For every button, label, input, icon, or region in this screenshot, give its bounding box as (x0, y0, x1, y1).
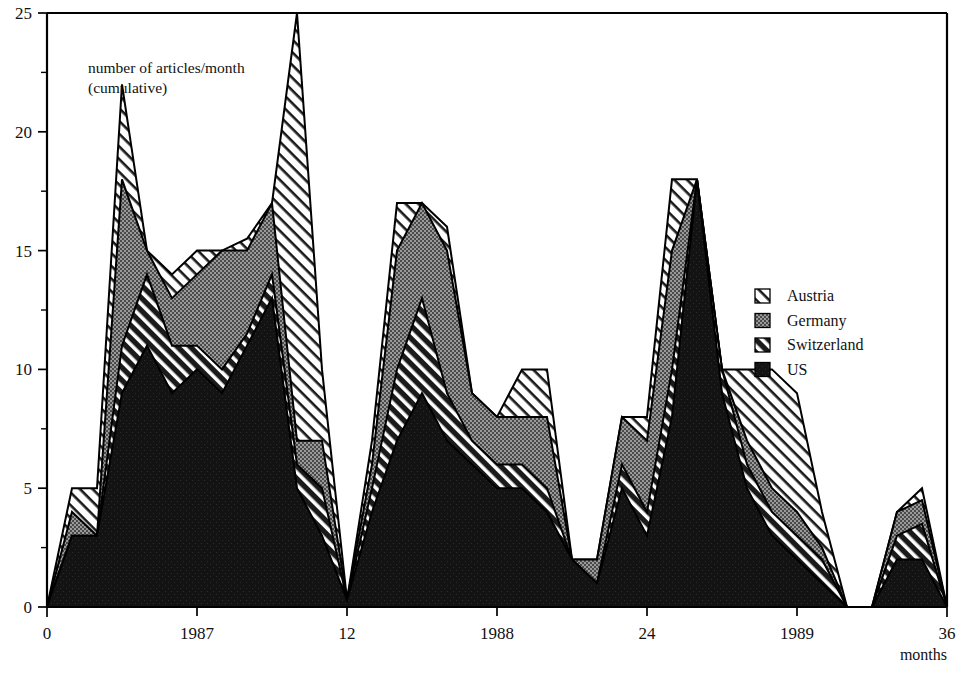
y-tick-label: 5 (24, 479, 33, 498)
y-tick-label: 10 (15, 360, 32, 379)
legend-item-germany: Germany (755, 312, 847, 330)
legend-item-label: Austria (787, 287, 834, 304)
legend-swatch-icon (755, 289, 770, 303)
legend-item-label: Germany (787, 312, 847, 330)
x-tick-label: 1989 (780, 624, 814, 643)
annotation-line-1: number of articles/month (88, 59, 245, 76)
x-tick-label: 36 (939, 624, 956, 643)
legend-item-label: US (787, 361, 807, 378)
x-tick-label: 24 (639, 624, 657, 643)
annotation-line-2: (cumulative) (88, 79, 167, 97)
legend-swatch-icon (755, 314, 770, 328)
legend-item-austria: Austria (755, 287, 834, 304)
x-axis-label: months (900, 646, 947, 663)
legend-swatch-icon (755, 363, 770, 377)
x-tick-label: 1987 (180, 624, 215, 643)
area-chart-svg: 0510152025 0198712198824198936 number of… (0, 0, 971, 674)
y-axis-ticks: 0510152025 (15, 4, 47, 617)
y-tick-label: 15 (15, 242, 32, 261)
x-tick-label: 0 (43, 624, 52, 643)
chart-figure: 0510152025 0198712198824198936 number of… (0, 0, 971, 674)
y-tick-label: 25 (15, 4, 32, 23)
x-tick-label: 1988 (480, 624, 514, 643)
x-axis-name: months (900, 646, 947, 663)
x-tick-label: 12 (339, 624, 356, 643)
legend-item-label: Switzerland (787, 336, 863, 353)
y-tick-label: 0 (24, 598, 33, 617)
y-tick-label: 20 (15, 123, 32, 142)
legend-swatch-icon (755, 338, 770, 352)
